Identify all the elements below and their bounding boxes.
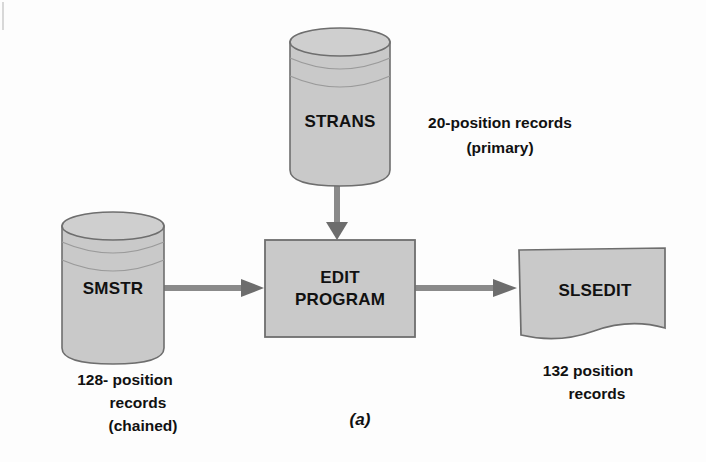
edit-program-label-line2: PROGRAM: [295, 290, 385, 309]
arrow-strans-to-edit: [326, 178, 348, 240]
edit-program-box: [265, 240, 415, 337]
node-smstr[interactable]: SMSTR: [62, 212, 164, 364]
strans-annotation: 20-position records (primary): [428, 114, 572, 156]
node-strans[interactable]: STRANS: [290, 28, 390, 186]
slsedit-label: SLSEDIT: [558, 281, 632, 300]
slsedit-annotation-line1: 132 position: [543, 362, 633, 379]
strans-annotation-line1: 20-position records: [428, 114, 572, 131]
strans-annotation-line2: (primary): [466, 139, 533, 156]
edit-program-label-line1: EDIT: [320, 268, 360, 287]
strans-label: STRANS: [304, 112, 375, 131]
smstr-annotation-line2: records: [110, 394, 167, 411]
figure-caption: (a): [350, 410, 371, 429]
arrow-smstr-to-edit: [163, 279, 264, 297]
slsedit-annotation-line2: records: [569, 385, 626, 402]
smstr-label: SMSTR: [83, 279, 144, 298]
arrow-edit-to-slsedit: [415, 279, 517, 297]
smstr-annotation-line1: 128- position: [77, 371, 173, 388]
slsedit-annotation: 132 position records: [543, 362, 633, 402]
node-edit-program[interactable]: EDIT PROGRAM: [265, 240, 415, 337]
node-slsedit[interactable]: SLSEDIT: [519, 248, 665, 339]
smstr-annotation-line3: (chained): [109, 417, 178, 434]
strans-cylinder-top: [290, 28, 390, 56]
smstr-annotation: 128- position records (chained): [77, 371, 177, 434]
system-flowchart-diagram: STRANS 20-position records (primary) SMS…: [0, 0, 706, 462]
smstr-cylinder-top: [62, 212, 164, 240]
